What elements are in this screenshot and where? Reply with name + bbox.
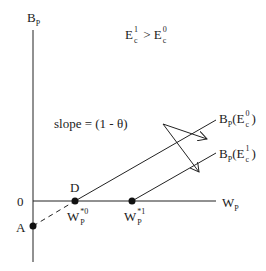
slope-label: slope = (1 - θ) <box>54 117 128 130</box>
point-d <box>72 198 79 205</box>
w-star-0-label: W*0P <box>67 210 86 223</box>
line-bp-e1 <box>132 153 216 201</box>
origin-label: 0 <box>17 195 24 208</box>
point-d-label: D <box>70 181 79 194</box>
slope-arrow-2 <box>163 124 199 172</box>
slope-arrow-1 <box>163 124 207 139</box>
point-w1 <box>129 198 136 205</box>
line-bp-e0 <box>75 120 216 201</box>
point-a-label: A <box>16 221 25 234</box>
y-axis-label: BP <box>27 11 40 24</box>
w-star-1-label: W*1P <box>124 210 143 223</box>
line-e0-label: BP(E0c) <box>219 112 256 125</box>
line-e1-label: BP(E1c) <box>219 147 256 160</box>
point-a <box>30 223 37 230</box>
x-axis-label: WP <box>222 196 239 209</box>
condition-label: E1c > E0c <box>125 28 169 41</box>
